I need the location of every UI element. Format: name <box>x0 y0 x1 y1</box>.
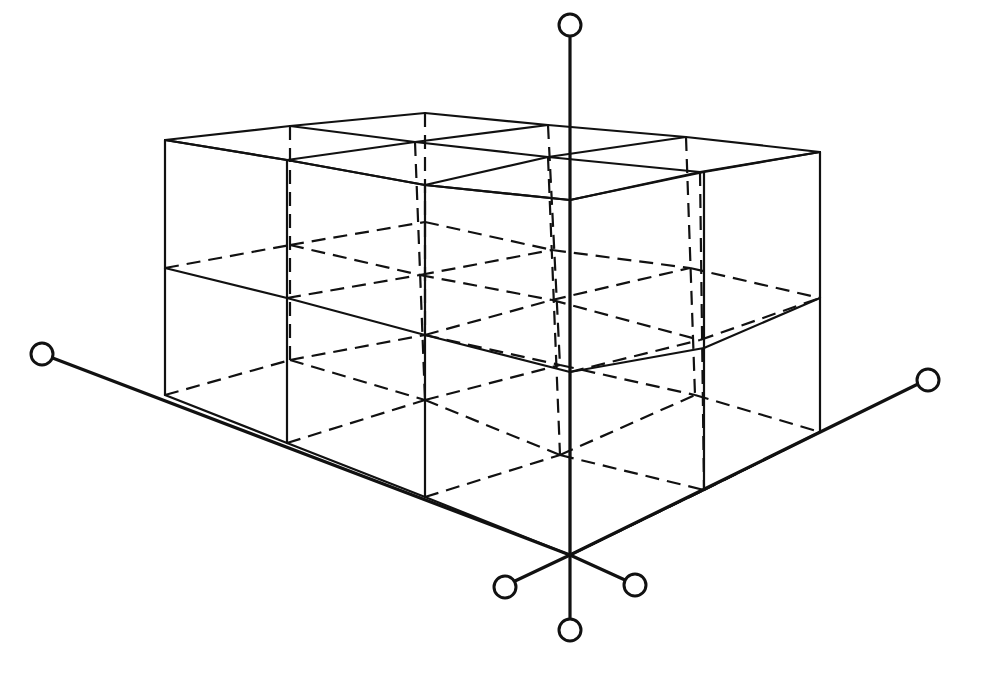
lower-right-spoke-node-icon <box>624 574 646 596</box>
top-grid-line <box>686 137 820 152</box>
hidden-grid-line <box>290 222 425 245</box>
hidden-grid-line <box>425 400 560 455</box>
front-left-edge-bot <box>287 443 425 497</box>
hidden-vertical <box>415 142 425 400</box>
front-left-edge-bot <box>425 497 570 555</box>
hidden-grid-line <box>420 250 552 275</box>
hidden-grid-line <box>425 300 552 335</box>
front-left-edge-mid <box>165 268 287 298</box>
hidden-grid-line <box>695 395 820 432</box>
front-right-edge-mid <box>704 298 820 348</box>
hidden-grid-line <box>552 268 690 300</box>
lower-left-spoke-node-icon <box>494 576 516 598</box>
hidden-grid-line <box>425 365 560 400</box>
top-grid-line <box>415 142 548 157</box>
front-left-edge-mid <box>287 298 425 335</box>
hidden-grid-line <box>425 222 552 250</box>
top-grid-line <box>287 160 425 185</box>
hidden-edges <box>165 113 820 555</box>
top-grid-line <box>570 172 700 200</box>
hidden-grid-line <box>570 340 700 372</box>
top-grid-line <box>415 125 548 142</box>
visible-edges <box>165 113 820 555</box>
front-left-edge-bot <box>165 395 287 443</box>
top-grid-line <box>287 142 415 160</box>
top-grid-line <box>290 126 415 142</box>
top-axis-end-node-icon <box>559 14 581 36</box>
hidden-grid-line <box>552 300 700 340</box>
front-right-edge-bot <box>704 432 820 490</box>
hidden-grid-line <box>690 268 820 298</box>
front-right-edge-bot <box>570 490 704 555</box>
hidden-grid-line <box>287 275 420 298</box>
top-grid-line <box>700 152 820 172</box>
right-axis-end-node-icon <box>917 369 939 391</box>
front-left-edge-mid <box>425 335 570 372</box>
top-grid-line <box>290 113 425 126</box>
hidden-grid-line <box>287 400 425 443</box>
lower-left-spoke-line <box>515 555 570 581</box>
axis-nodes <box>31 14 939 641</box>
top-grid-line <box>425 113 548 125</box>
left-axis-end-node-icon <box>31 343 53 365</box>
hidden-grid-line <box>165 360 290 395</box>
hidden-grid-line <box>290 245 420 275</box>
hidden-grid-line <box>552 250 690 268</box>
top-grid-line <box>165 126 290 140</box>
hidden-vertical <box>548 157 560 455</box>
top-grid-line <box>165 140 287 160</box>
block-grid-diagram <box>0 0 1006 684</box>
left-axis-line <box>50 357 570 555</box>
hidden-grid-line <box>290 360 425 400</box>
bottom-axis-end-node-icon <box>559 619 581 641</box>
hidden-grid-line <box>560 395 695 455</box>
hidden-grid-line <box>165 245 290 268</box>
axes <box>50 37 918 618</box>
hidden-grid-line <box>425 455 560 497</box>
top-grid-line <box>425 157 548 185</box>
hidden-grid-line <box>700 298 820 340</box>
hidden-grid-line <box>290 335 425 360</box>
front-right-edge-mid <box>570 348 704 372</box>
hidden-vertical <box>548 125 560 365</box>
hidden-grid-line <box>560 455 704 490</box>
hidden-grid-line <box>420 275 552 300</box>
lower-right-spoke-line <box>570 555 625 580</box>
